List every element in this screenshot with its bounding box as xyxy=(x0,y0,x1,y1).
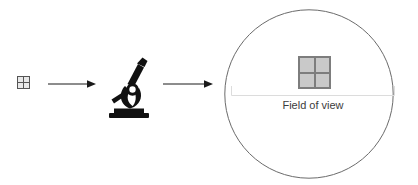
arrow-right-icon-1 xyxy=(48,78,96,90)
microscope-field-of-view-diagram: Field of view xyxy=(0,0,418,185)
specimen-cell xyxy=(24,77,29,82)
specimen-grid-magnified xyxy=(298,56,331,89)
field-of-view-bracket xyxy=(231,86,395,96)
specimen-cell xyxy=(316,74,330,88)
specimen-cell xyxy=(18,83,23,88)
specimen-cell xyxy=(300,58,314,72)
specimen-cell xyxy=(18,77,23,82)
specimen-cell xyxy=(316,58,330,72)
microscope-icon xyxy=(108,55,150,120)
field-of-view-label: Field of view xyxy=(231,99,395,112)
specimen-grid-small xyxy=(17,76,30,89)
arrow-right-icon-2 xyxy=(163,78,213,90)
specimen-cell xyxy=(300,74,314,88)
specimen-cell xyxy=(24,83,29,88)
